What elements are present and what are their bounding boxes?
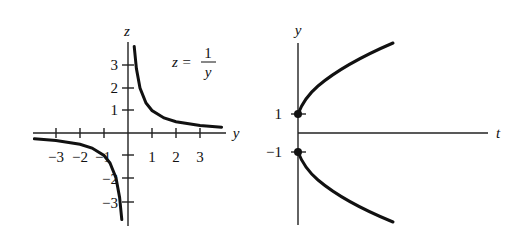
left-ztick-label: 1 xyxy=(111,102,119,118)
initial-point-pos xyxy=(294,110,302,118)
left-xtick-label: 2 xyxy=(172,149,180,165)
svg-text:y: y xyxy=(203,64,212,80)
left-z-label: z xyxy=(123,23,130,39)
left-ztick-label: 2 xyxy=(111,80,119,96)
svg-text:1: 1 xyxy=(204,45,212,61)
svg-text:z =: z = xyxy=(171,54,192,70)
left-xtick-label: 3 xyxy=(196,149,204,165)
left-y-label: y xyxy=(231,125,240,141)
left-chart: −3 −2 −1 1 2 3 3 2 1 −2 −3 z y z = 1 y xyxy=(33,23,240,226)
lower-solution-curve xyxy=(298,152,393,222)
right-y-label: y xyxy=(293,22,302,38)
right-tick-label-pos: 1 xyxy=(275,106,283,122)
left-xtick-label: −3 xyxy=(48,149,64,165)
upper-solution-curve xyxy=(298,43,393,114)
left-xtick-label: 1 xyxy=(148,149,156,165)
equation-label: z = 1 y xyxy=(171,45,216,80)
left-ztick-label: −3 xyxy=(102,195,118,211)
right-t-label: t xyxy=(496,125,501,141)
initial-point-neg xyxy=(294,148,302,156)
left-ztick-label: 3 xyxy=(111,57,119,73)
left-xtick-label: −2 xyxy=(72,149,88,165)
right-chart: 1 −1 y t xyxy=(266,22,501,225)
figure: −3 −2 −1 1 2 3 3 2 1 −2 −3 z y z = 1 y 1 xyxy=(0,0,509,245)
right-tick-label-neg: −1 xyxy=(266,144,282,160)
